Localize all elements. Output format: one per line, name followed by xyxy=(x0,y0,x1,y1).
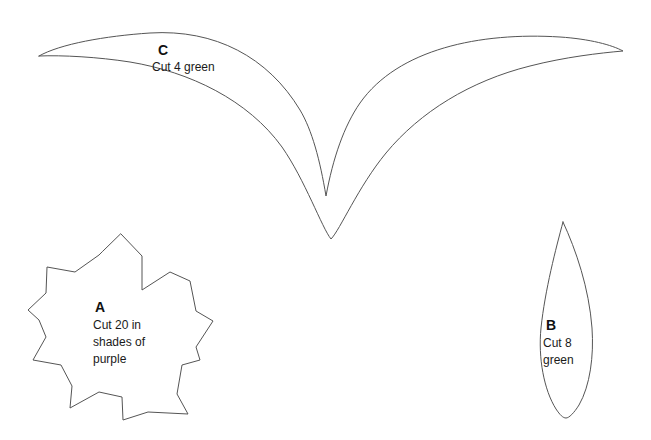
piece-c-instruction-line-1: Cut 4 green xyxy=(152,60,215,74)
piece-a-letter: A xyxy=(95,299,105,315)
pattern-piece-c[interactable]: C Cut 4 green xyxy=(39,33,623,239)
piece-a-instruction-line-1: Cut 20 in xyxy=(93,318,141,332)
piece-b-letter: B xyxy=(546,317,556,333)
piece-c-letter: C xyxy=(158,42,168,58)
pattern-piece-b[interactable]: B Cut 8 green xyxy=(540,222,592,418)
pattern-piece-a[interactable]: A Cut 20 in shades of purple xyxy=(28,234,213,420)
piece-b-instruction-line-2: green xyxy=(543,353,574,367)
pattern-canvas: C Cut 4 green A Cut 20 in shades of purp… xyxy=(0,0,651,440)
piece-c-outline[interactable] xyxy=(39,33,623,239)
piece-b-instruction-line-1: Cut 8 xyxy=(543,336,572,350)
piece-a-instruction-line-3: purple xyxy=(93,352,127,366)
piece-a-instruction-line-2: shades of xyxy=(93,335,146,349)
pattern-sheet: C Cut 4 green A Cut 20 in shades of purp… xyxy=(0,0,651,440)
